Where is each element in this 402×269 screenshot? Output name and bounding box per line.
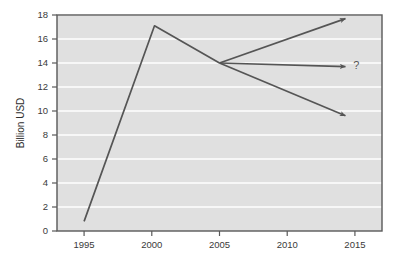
y-tick-label: 12	[37, 81, 48, 92]
y-tick-label: 18	[37, 9, 48, 20]
x-tick-label: 2000	[141, 239, 162, 250]
y-axis-title: Billion USD	[15, 98, 26, 149]
annotation-question-mark: ?	[353, 59, 359, 71]
y-tick-label: 2	[43, 201, 48, 212]
annotation-layer: ?	[353, 59, 359, 71]
x-tick-label: 1995	[74, 239, 95, 250]
plot-background	[57, 15, 382, 231]
y-tick-label: 14	[37, 57, 48, 68]
x-tick-label: 2005	[209, 239, 230, 250]
line-chart: 19952000200520102015 024681012141618 ? B…	[0, 0, 402, 269]
x-tick-label: 2010	[277, 239, 298, 250]
x-tick-label: 2015	[344, 239, 365, 250]
y-tick-label: 10	[37, 105, 48, 116]
y-tick-label: 0	[43, 225, 48, 236]
chart-figure: 19952000200520102015 024681012141618 ? B…	[0, 0, 402, 269]
y-tick-label: 16	[37, 33, 48, 44]
y-tick-label: 4	[43, 177, 48, 188]
y-tick-label: 8	[43, 129, 48, 140]
y-tick-label: 6	[43, 153, 48, 164]
